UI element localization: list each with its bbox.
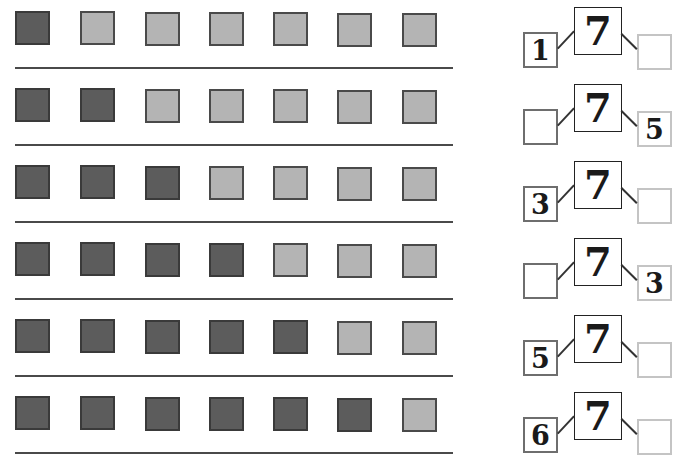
bond-connector-left (557, 184, 574, 203)
unshaded-square (402, 398, 437, 432)
shaded-square (145, 320, 180, 354)
whole-box: 7 (574, 392, 622, 440)
unshaded-square (145, 12, 180, 46)
part-box-right[interactable] (637, 342, 672, 378)
unshaded-square (273, 166, 308, 200)
worksheet-row: 37 (0, 154, 678, 231)
part-box-right: 5 (637, 111, 672, 147)
shaded-square (80, 88, 115, 122)
unshaded-square (402, 90, 437, 124)
shaded-square (15, 319, 50, 353)
shaded-square (209, 320, 244, 354)
whole-box: 7 (574, 161, 622, 209)
whole-box: 7 (574, 84, 622, 132)
part-box-left[interactable] (523, 109, 558, 145)
unshaded-square (209, 89, 244, 123)
part-box-right: 3 (637, 265, 672, 301)
bond-connector-left (557, 30, 574, 49)
bond-connector-right (621, 33, 638, 50)
shaded-square (273, 320, 308, 354)
bond-connector-left (557, 415, 574, 434)
bond-connector-right (621, 187, 638, 204)
bond-connector-right (621, 110, 638, 127)
row-divider (15, 144, 453, 146)
part-box-right[interactable] (637, 34, 672, 70)
shaded-square (209, 243, 244, 277)
worksheet-row: 75 (0, 77, 678, 154)
shaded-square (15, 242, 50, 276)
row-divider (15, 298, 453, 300)
unshaded-square (273, 89, 308, 123)
part-box-right[interactable] (637, 419, 672, 455)
row-divider (15, 375, 453, 377)
shaded-square (15, 396, 50, 430)
bond-connector-left (557, 338, 574, 357)
row-divider (15, 67, 453, 69)
row-divider (15, 221, 453, 223)
row-divider (15, 452, 453, 454)
shaded-square (15, 165, 50, 199)
shaded-square (80, 396, 115, 430)
unshaded-square (402, 321, 437, 355)
unshaded-square (80, 11, 115, 45)
shaded-square (337, 398, 372, 432)
whole-box: 7 (574, 315, 622, 363)
whole-box: 7 (574, 238, 622, 286)
shaded-square (80, 319, 115, 353)
bond-connector-right (621, 341, 638, 358)
shaded-square (80, 165, 115, 199)
bond-connector-right (621, 264, 638, 281)
unshaded-square (402, 244, 437, 278)
unshaded-square (402, 167, 437, 201)
part-box-left[interactable] (523, 263, 558, 299)
unshaded-square (145, 89, 180, 123)
bond-connector-left (557, 261, 574, 280)
part-box-left: 3 (523, 186, 558, 222)
shaded-square (145, 243, 180, 277)
shaded-square (145, 397, 180, 431)
unshaded-square (273, 12, 308, 46)
shaded-square (145, 166, 180, 200)
bond-connector-right (621, 418, 638, 435)
shaded-square (15, 11, 50, 45)
unshaded-square (337, 244, 372, 278)
worksheet-row: 17 (0, 0, 678, 77)
worksheet-row: 57 (0, 308, 678, 385)
part-box-right[interactable] (637, 188, 672, 224)
unshaded-square (209, 166, 244, 200)
whole-box: 7 (574, 7, 622, 55)
part-box-left: 1 (523, 32, 558, 68)
shaded-square (80, 242, 115, 276)
unshaded-square (209, 12, 244, 46)
part-box-left: 6 (523, 417, 558, 453)
shaded-square (273, 397, 308, 431)
worksheet-row: 67 (0, 385, 678, 462)
worksheet-row: 73 (0, 231, 678, 308)
shaded-square (209, 397, 244, 431)
unshaded-square (273, 243, 308, 277)
unshaded-square (337, 13, 372, 47)
unshaded-square (402, 13, 437, 47)
unshaded-square (337, 321, 372, 355)
part-box-left: 5 (523, 340, 558, 376)
bond-connector-left (557, 107, 574, 126)
shaded-square (15, 88, 50, 122)
unshaded-square (337, 90, 372, 124)
unshaded-square (337, 167, 372, 201)
